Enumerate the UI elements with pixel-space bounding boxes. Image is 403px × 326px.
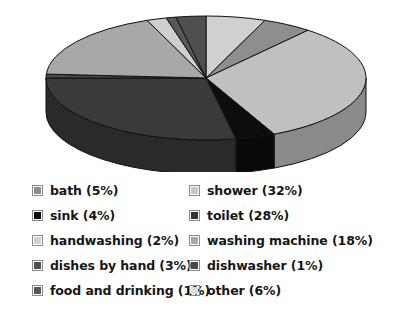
legend-item-bath[interactable]: bath (5%) bbox=[0, 184, 180, 198]
legend-row: handwashing (2%) washing machine (18%) bbox=[0, 228, 403, 253]
swatch-toilet bbox=[189, 210, 200, 221]
legend-item-other[interactable]: other (6%) bbox=[180, 284, 403, 298]
legend-item-sink[interactable]: sink (4%) bbox=[0, 209, 180, 223]
swatch-fill-washing-machine bbox=[191, 237, 198, 244]
swatch-dishwasher bbox=[189, 260, 200, 271]
legend-label-sink: sink (4%) bbox=[50, 209, 115, 223]
swatch-fill-bath bbox=[34, 187, 41, 194]
legend-label-other: other (6%) bbox=[207, 284, 281, 298]
swatch-bath bbox=[32, 185, 43, 196]
swatch-dishes-by-hand bbox=[32, 260, 43, 271]
legend-row: food and drinking (1%) other (6%) bbox=[0, 278, 403, 303]
pie-side-sink bbox=[236, 134, 274, 172]
swatch-shower bbox=[189, 185, 200, 196]
legend-row: sink (4%) toilet (28%) bbox=[0, 203, 403, 228]
swatch-fill-food-and-drinking bbox=[34, 287, 41, 294]
swatch-washing-machine bbox=[189, 235, 200, 246]
legend-label-handwashing: handwashing (2%) bbox=[50, 234, 179, 248]
swatch-fill-dishwasher bbox=[191, 262, 198, 269]
legend-item-dishwasher[interactable]: dishwasher (1%) bbox=[180, 259, 403, 273]
pie-chart-figure: bath (5%) shower (32%) sink (4%) toilet … bbox=[0, 0, 403, 326]
legend-item-washing-machine[interactable]: washing machine (18%) bbox=[180, 234, 403, 248]
legend-label-dishes-by-hand: dishes by hand (3%) bbox=[50, 259, 192, 273]
legend-row: dishes by hand (3%) dishwasher (1%) bbox=[0, 253, 403, 278]
legend-item-handwashing[interactable]: handwashing (2%) bbox=[0, 234, 180, 248]
legend-label-washing-machine: washing machine (18%) bbox=[207, 234, 373, 248]
legend-item-shower[interactable]: shower (32%) bbox=[180, 184, 403, 198]
swatch-fill-other bbox=[191, 287, 198, 294]
legend-label-shower: shower (32%) bbox=[207, 184, 303, 198]
chart-legend: bath (5%) shower (32%) sink (4%) toilet … bbox=[0, 176, 403, 326]
swatch-fill-dishes-by-hand bbox=[34, 262, 41, 269]
legend-item-food-and-drinking[interactable]: food and drinking (1%) bbox=[0, 284, 180, 298]
legend-item-dishes-by-hand[interactable]: dishes by hand (3%) bbox=[0, 259, 180, 273]
pie-svg bbox=[0, 0, 403, 172]
legend-label-toilet: toilet (28%) bbox=[207, 209, 289, 223]
swatch-fill-sink bbox=[34, 212, 41, 219]
legend-item-toilet[interactable]: toilet (28%) bbox=[180, 209, 403, 223]
swatch-food-and-drinking bbox=[32, 285, 43, 296]
swatch-fill-shower bbox=[191, 187, 198, 194]
legend-label-dishwasher: dishwasher (1%) bbox=[207, 259, 323, 273]
swatch-sink bbox=[32, 210, 43, 221]
legend-row: bath (5%) shower (32%) bbox=[0, 178, 403, 203]
swatch-fill-handwashing bbox=[34, 237, 41, 244]
swatch-handwashing bbox=[32, 235, 43, 246]
swatch-fill-toilet bbox=[191, 212, 198, 219]
pie-chart-graphic bbox=[0, 0, 403, 172]
pie-top-faces bbox=[46, 16, 366, 140]
legend-label-bath: bath (5%) bbox=[50, 184, 118, 198]
swatch-other bbox=[189, 285, 200, 296]
